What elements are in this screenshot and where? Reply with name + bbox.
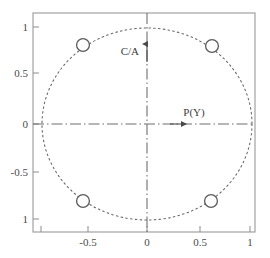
y-tick-label-neg0_5: -0.5	[11, 166, 29, 178]
constellation-plot: 1 0.5 0 -0.5 1 -0.5 0 0.5 1 C/A P(Y)	[0, 0, 270, 258]
horizontal-axis-label: P(Y)	[183, 106, 205, 119]
data-point-marker	[205, 195, 218, 208]
plot-frame	[33, 13, 255, 232]
y-tick-label-1: 1	[23, 21, 29, 33]
y-tick-label-0: 0	[23, 118, 29, 130]
x-axis-ticks	[41, 226, 250, 232]
figure-container: 1 0.5 0 -0.5 1 -0.5 0 0.5 1 C/A P(Y)	[0, 0, 270, 258]
x-tick-label-1: 1	[247, 236, 253, 248]
data-point-marker	[206, 40, 219, 53]
data-point-marker	[77, 195, 90, 208]
x-tick-label-0_5: 0.5	[193, 236, 207, 248]
y-tick-label-0_5: 0.5	[14, 67, 28, 79]
y-axis-ticks	[33, 27, 39, 219]
y-tick-label-neg1: 1	[23, 213, 29, 225]
data-point-marker	[77, 39, 90, 52]
x-tick-label-neg0_5: -0.5	[79, 236, 97, 248]
x-tick-label-0: 0	[144, 236, 150, 248]
vertical-axis-label: C/A	[121, 45, 139, 57]
